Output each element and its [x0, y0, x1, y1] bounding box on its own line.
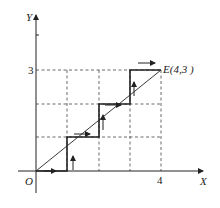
x-tick-label: 4	[157, 174, 163, 186]
step-path-diagram: Y X O 4 3 E(4,3 )	[0, 0, 220, 208]
y-tick-label: 3	[28, 64, 34, 76]
y-axis-label: Y	[26, 11, 34, 23]
x-axis-label: X	[199, 175, 208, 187]
endpoint-label: E(4,3 )	[162, 63, 194, 76]
origin-label: O	[25, 175, 33, 187]
